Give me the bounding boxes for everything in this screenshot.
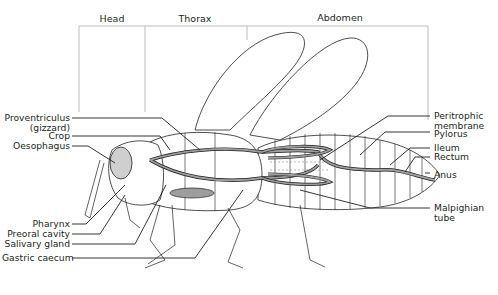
label-oesophagus: Oesophagus (2, 141, 70, 151)
label-rectum: Rectum (434, 152, 469, 162)
label-anus: Anus (434, 170, 457, 180)
wings-outline (195, 32, 368, 140)
label-pylorus: Pylorus (434, 129, 468, 139)
insect-digestive-diagram: Head Thorax Abdomen (0, 0, 498, 295)
insect-illustration (0, 0, 498, 295)
label-malpighian-tube: Malpighian tube (434, 203, 484, 223)
gastric-caecum-shape (170, 188, 214, 198)
label-line: tube (434, 213, 484, 223)
label-gastric-caecum: Gastric caecum (2, 253, 70, 263)
label-salivary-gland: Salivary gland (2, 239, 70, 249)
